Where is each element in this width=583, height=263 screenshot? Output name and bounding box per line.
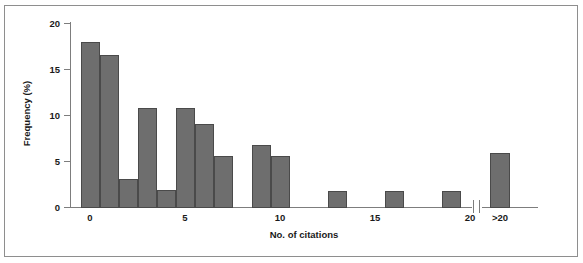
bar-2: [119, 179, 138, 208]
figure: 0 5 10 15 20 Frequency (%) 0 5 10 15 20 …: [0, 0, 583, 263]
bar-6: [195, 124, 214, 208]
x-tick-label-5: 5: [165, 213, 205, 223]
bar-16: [385, 191, 404, 208]
bar-9: [252, 145, 271, 208]
plot-area: 0 5 10 15 20 Frequency (%) 0 5 10 15 20 …: [0, 0, 583, 263]
bar-5: [176, 108, 195, 208]
x-tick-label-15: 15: [355, 213, 395, 223]
bar-10: [271, 156, 290, 208]
y-tick-20: [64, 23, 70, 24]
bar-3: [138, 108, 157, 208]
bar-0: [81, 42, 100, 208]
bar-7: [214, 156, 233, 208]
y-axis-title: Frequency (%): [21, 44, 32, 184]
x-axis-title: No. of citations: [70, 229, 538, 240]
y-tick-label-20: 20: [20, 19, 60, 29]
y-tick-0: [64, 207, 70, 208]
bar-1: [100, 55, 119, 208]
x-tick-label-10: 10: [260, 213, 300, 223]
x-tick-label-gt20: >20: [480, 213, 520, 223]
bar-19: [442, 191, 461, 208]
bar-4: [157, 190, 176, 208]
y-tick-15: [64, 69, 70, 70]
x-tick-label-0: 0: [70, 213, 110, 223]
y-tick-label-0: 0: [20, 203, 60, 213]
bar-13: [328, 191, 347, 208]
y-tick-5: [64, 161, 70, 162]
y-tick-10: [64, 115, 70, 116]
y-axis-line: [70, 22, 71, 208]
bar-gt20: [490, 153, 510, 208]
